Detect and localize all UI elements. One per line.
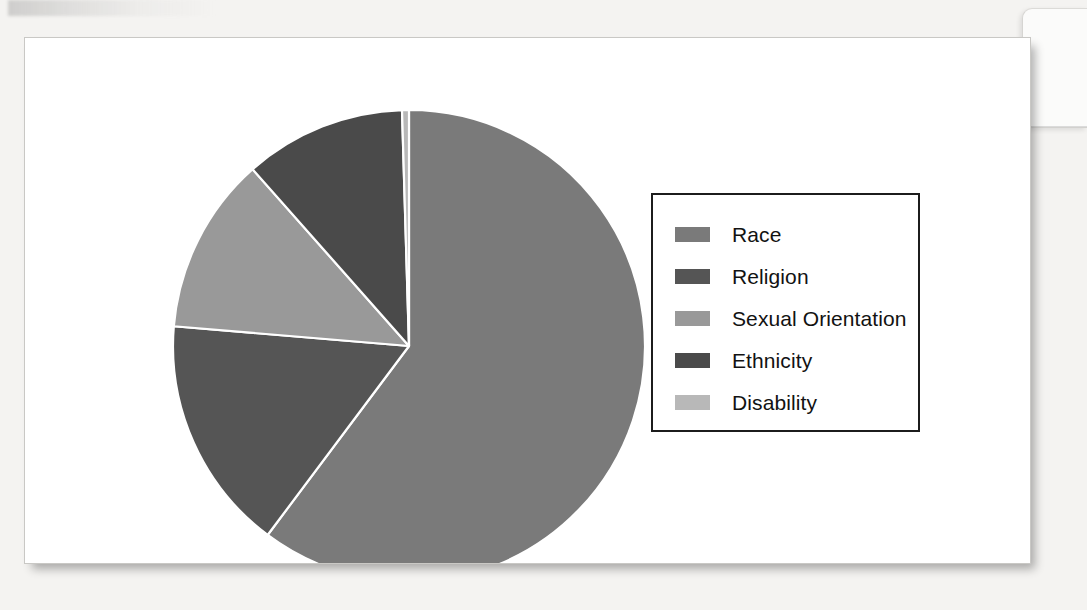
legend-item-label: Race: [732, 224, 781, 245]
legend-swatch-icon: [675, 395, 710, 410]
legend-item: Sexual Orientation: [675, 297, 908, 339]
scan-artifact-smudge: [8, 0, 218, 16]
legend-swatch-icon: [675, 311, 710, 326]
pie-slice-group: [173, 110, 645, 563]
chart-legend: RaceReligionSexual OrientationEthnicityD…: [651, 193, 920, 432]
legend-item-label: Religion: [732, 266, 809, 287]
figure-card: RaceReligionSexual OrientationEthnicityD…: [24, 37, 1031, 564]
legend-item-label: Ethnicity: [732, 350, 812, 371]
legend-swatch-icon: [675, 269, 710, 284]
legend-item-list: RaceReligionSexual OrientationEthnicityD…: [675, 213, 908, 420]
legend-swatch-icon: [675, 353, 710, 368]
right-edge-panel-divider: [1023, 126, 1087, 127]
legend-item-label: Sexual Orientation: [732, 308, 907, 329]
legend-item: Race: [675, 213, 908, 255]
right-edge-panel: [1022, 8, 1087, 128]
legend-swatch-icon: [675, 227, 710, 242]
page-background: RaceReligionSexual OrientationEthnicityD…: [0, 0, 1087, 610]
legend-item: Ethnicity: [675, 339, 908, 381]
legend-item: Disability: [675, 381, 908, 423]
pie-chart: RaceReligionSexual OrientationEthnicityD…: [25, 38, 1030, 563]
legend-item-label: Disability: [732, 392, 817, 413]
legend-item: Religion: [675, 255, 908, 297]
